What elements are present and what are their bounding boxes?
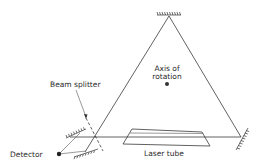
left-upper-mirror-icon bbox=[66, 127, 86, 138]
ring-laser-diagram: Axis of rotation Beam splitter Detector … bbox=[0, 0, 257, 164]
top-mirror-icon bbox=[157, 12, 181, 15]
axis-label-line2: rotation bbox=[152, 72, 182, 81]
axis-of-rotation-dot bbox=[165, 82, 169, 86]
beam-splitter-label: Beam splitter bbox=[50, 80, 101, 89]
detector-label: Detector bbox=[10, 150, 44, 159]
laser-tube-icon bbox=[123, 129, 210, 146]
laser-tube-label: Laser tube bbox=[144, 149, 184, 158]
detector-dot bbox=[57, 152, 61, 156]
beam-splitter-arrow-icon bbox=[76, 90, 88, 119]
detector-beams bbox=[59, 133, 86, 154]
